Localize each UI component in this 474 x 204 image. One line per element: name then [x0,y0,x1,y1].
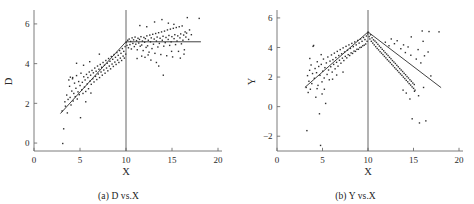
y-tick-label: 6 [268,13,273,23]
data-point [348,54,349,55]
y-axis-title: Y [246,77,257,85]
data-point [146,26,147,27]
data-point [91,84,92,85]
data-point [120,53,121,54]
x-axis-title: X [364,166,372,177]
data-point [327,56,328,57]
data-point [407,81,408,82]
data-point [337,51,338,52]
data-point [310,64,311,65]
data-point [158,32,159,33]
data-point [76,63,77,64]
data-point [178,51,179,52]
data-point [402,89,403,90]
data-point [127,40,128,41]
data-point [131,37,132,38]
data-point [184,49,185,50]
data-point [126,45,127,46]
data-point [147,54,148,55]
data-point [85,101,86,102]
data-point [148,51,149,52]
data-point [391,64,392,65]
data-point [159,38,160,39]
data-point [129,44,130,45]
data-point [106,67,107,68]
data-point [97,65,98,66]
data-point [120,57,121,58]
data-point [371,37,372,38]
data-point [331,54,332,55]
data-point [403,76,404,77]
data-point [180,33,181,34]
data-point [145,38,146,39]
data-point [163,75,164,76]
data-point [90,75,91,76]
data-point [352,53,353,54]
data-point [395,63,396,64]
data-point [345,56,346,57]
data-point [428,31,429,32]
data-point [164,30,165,31]
data-point [152,34,153,35]
data-point [332,59,333,60]
data-point [114,61,115,62]
data-point [135,44,136,45]
data-point [371,41,372,42]
data-point [377,44,378,45]
y-tick-label: 0 [268,102,273,112]
data-point [156,36,157,37]
data-point [100,71,101,72]
data-point [79,85,80,86]
data-point [337,65,338,66]
data-point [307,75,308,76]
data-point [329,60,330,61]
data-point [89,61,90,62]
data-point [356,44,357,45]
data-point [410,55,411,56]
data-point [403,44,404,45]
data-point [143,37,144,38]
data-point [321,64,322,65]
data-point [321,81,322,82]
data-point [412,82,413,83]
data-point [78,81,79,82]
data-point [156,62,157,63]
panel-a-caption: (a) D vs.X [0,191,237,201]
data-point [390,58,391,59]
data-point [110,68,111,69]
data-point [109,61,110,62]
data-point [394,67,395,68]
data-point [358,42,359,43]
data-point [62,143,63,144]
data-point [123,51,124,52]
data-point [181,25,182,26]
data-point [108,58,109,59]
data-point [400,73,401,74]
data-point [316,72,317,73]
data-point [420,62,421,63]
y-tick-label: 4 [25,59,30,69]
data-point [167,39,168,40]
data-point [400,48,401,49]
data-point [409,98,410,99]
data-point [311,83,312,84]
data-point [405,52,406,53]
data-point [330,66,331,67]
data-point [96,79,97,80]
data-point [366,35,367,36]
data-point [154,38,155,39]
data-point [406,80,407,81]
data-point [69,86,70,87]
data-point [397,70,398,71]
data-point [121,60,122,61]
data-point [350,52,351,53]
data-point [361,47,362,48]
data-point [77,98,78,99]
y-tick-label: 2 [25,99,30,109]
data-point [174,34,175,35]
data-point [95,71,96,72]
data-point [396,40,397,41]
data-point [122,48,123,49]
data-point [422,30,423,31]
data-point [166,55,167,56]
